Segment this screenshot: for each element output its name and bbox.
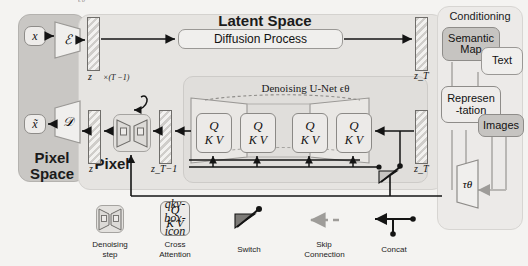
legend-caption-switch: Switch <box>219 245 279 254</box>
legend-caption-attention-l2: Attention <box>145 250 205 259</box>
legend-caption-skip-l1: Skip <box>294 240 354 249</box>
legend-qkv-kv-text: K V <box>160 217 190 229</box>
legend-caption-denoising-l2: step <box>80 250 140 259</box>
legend-caption-attention-l1: Cross <box>145 240 205 249</box>
figure-canvas: ϵθ Pixel Pixel Space Latent Space Condit… <box>0 0 528 266</box>
legend-icon-layer <box>0 0 528 266</box>
legend-caption-concat: Concat <box>364 245 424 254</box>
legend-caption-denoising-l1: Denoising <box>80 240 140 249</box>
legend-qkv-q-text: Q <box>160 203 190 218</box>
legend-caption-skip-l2: Connection <box>287 250 362 259</box>
